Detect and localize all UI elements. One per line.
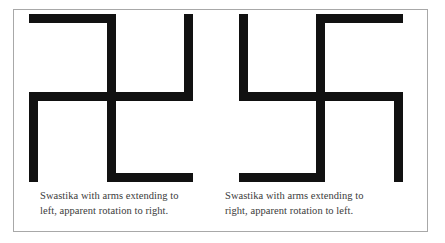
- caption-right: Swastika with arms extending to right, a…: [225, 189, 400, 218]
- figure-image-area: [14, 10, 427, 185]
- caption-right-line-2: right, apparent rotation to left.: [225, 204, 400, 219]
- caption-left-line-1: Swastika with arms extending to: [40, 189, 215, 204]
- swastika-right-facing-icon: [223, 14, 403, 182]
- caption-right-line-1: Swastika with arms extending to: [225, 189, 400, 204]
- figure-panel: Swastika with arms extending to left, ap…: [13, 9, 428, 232]
- swastika-left-facing-icon: [29, 14, 209, 182]
- caption-left-line-2: left, apparent rotation to right.: [40, 204, 215, 219]
- caption-left: Swastika with arms extending to left, ap…: [40, 189, 215, 218]
- figure-caption-area: Swastika with arms extending to left, ap…: [14, 185, 427, 233]
